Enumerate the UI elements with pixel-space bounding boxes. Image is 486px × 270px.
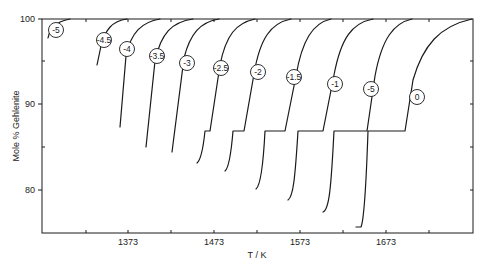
series-label: -2 — [251, 65, 266, 80]
gehlenite-chart: 100 90 80 1373 1473 1573 1673 T / K Mole… — [0, 0, 486, 270]
plot-frame — [42, 19, 473, 233]
curve-group: -5-4.5-4-3.5-3-2.5-2-1.5-1-50 — [48, 19, 472, 227]
series-label-text: 0 — [415, 92, 420, 102]
series-label-text: -5 — [367, 84, 375, 94]
series-label-text: -3 — [183, 58, 191, 68]
series-label-text: -4 — [123, 44, 131, 54]
series-label-text: -1.5 — [287, 72, 302, 82]
series-label: -2.5 — [214, 61, 229, 76]
series-line — [225, 19, 291, 171]
series-line — [197, 19, 255, 163]
series-line — [323, 19, 412, 212]
series-label: -1.5 — [287, 70, 302, 85]
series-label: -5 — [364, 82, 379, 97]
y-tick-label-90: 90 — [25, 99, 35, 109]
series-label-text: -5 — [52, 25, 60, 35]
series-label: -1 — [328, 77, 343, 92]
y-tick-label-100: 100 — [20, 14, 35, 24]
y-tick-label-80: 80 — [25, 185, 35, 195]
series-label-text: -3.5 — [150, 51, 165, 61]
y-axis-title: Mole % Gehlenite — [11, 90, 21, 161]
x-axis-title: T / K — [248, 250, 267, 260]
series-label: -4 — [120, 42, 135, 57]
series-label: 0 — [410, 90, 425, 105]
series-label-text: -2 — [254, 67, 262, 77]
x-tick-label-1573: 1573 — [290, 237, 310, 247]
series-line — [172, 19, 219, 152]
series-label: -3.5 — [150, 49, 165, 64]
series-line — [356, 19, 472, 227]
series-line — [288, 19, 373, 200]
series-label: -3 — [180, 56, 195, 71]
series-line — [146, 19, 193, 147]
series-label: -5 — [49, 23, 64, 38]
series-line — [256, 19, 331, 189]
x-tick-labels: 1373 1473 1573 1673 — [118, 237, 396, 247]
x-tick-label-1373: 1373 — [118, 237, 138, 247]
series-label-text: -4.5 — [97, 35, 112, 45]
y-tick-labels: 100 90 80 — [20, 14, 35, 195]
series-label-text: -1 — [331, 79, 339, 89]
x-tick-label-1673: 1673 — [376, 237, 396, 247]
series-label: -4.5 — [97, 33, 112, 48]
series-label-text: -2.5 — [214, 63, 229, 73]
x-tick-label-1473: 1473 — [204, 237, 224, 247]
